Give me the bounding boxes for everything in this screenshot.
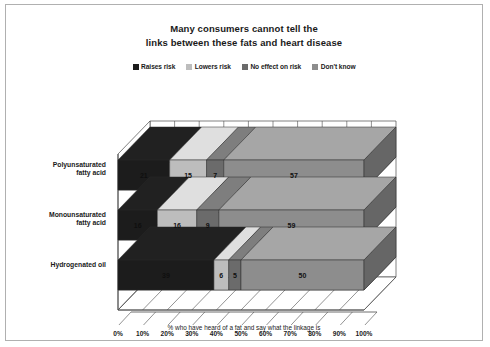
legend-label-dont-know: Don't know (321, 63, 356, 70)
bar-value-label: 57 (290, 172, 298, 179)
chart-title-line-2: links between these fats and heart disea… (6, 36, 482, 50)
legend-label-lowers-risk: Lowers risk (195, 63, 231, 70)
x-axis-tick-90: 90% (326, 330, 352, 337)
legend-item-raises-risk: Raises risk (133, 63, 176, 70)
plot-area: 21157571616959396550 (6, 85, 490, 325)
bar-value-label: 59 (288, 222, 296, 229)
category-label-polyunsaturated-fatty-acid: Polyunsaturated fatty acid (20, 161, 106, 178)
bar-value-label: 16 (134, 222, 142, 229)
x-axis-tick-30: 30% (179, 330, 205, 337)
bar-value-label: 6 (219, 272, 223, 279)
x-axis-tick-60: 60% (253, 330, 279, 337)
legend-swatch-no-effect-on-risk (242, 64, 248, 70)
bar-value-label: 21 (140, 172, 148, 179)
legend-item-dont-know: Don't know (312, 63, 355, 70)
x-axis-tick-20: 20% (154, 330, 180, 337)
legend-swatch-lowers-risk (186, 64, 192, 70)
bar-value-label: 7 (213, 172, 217, 179)
legend-item-lowers-risk: Lowers risk (186, 63, 231, 70)
x-axis-tick-80: 80% (302, 330, 328, 337)
chart-frame: Many consumers cannot tell the links bet… (5, 4, 483, 341)
bar-value-label: 15 (184, 172, 192, 179)
x-axis-tick-70: 70% (277, 330, 303, 337)
chart-bars (118, 127, 396, 290)
bar-value-label: 39 (162, 272, 170, 279)
legend-swatch-raises-risk (133, 64, 139, 70)
bar-value-label: 9 (206, 222, 210, 229)
legend-label-raises-risk: Raises risk (141, 63, 175, 70)
chart-legend: Raises risk Lowers risk No effect on ris… (6, 63, 482, 70)
legend-item-no-effect-on-risk: No effect on risk (242, 63, 301, 70)
bar-value-label: 5 (233, 272, 237, 279)
x-axis-tick-40: 40% (203, 330, 229, 337)
category-label-monounsaturated-fatty-acid: Monounsaturated fatty acid (20, 211, 106, 228)
x-axis-tick-50: 50% (228, 330, 254, 337)
category-label-hydrogenated-oil: Hydrogenated oil (20, 261, 106, 269)
chart-title-line-1: Many consumers cannot tell the (6, 22, 482, 36)
chart-caption: % who have heard of a fat and say what t… (6, 324, 482, 331)
chart-title: Many consumers cannot tell the links bet… (6, 22, 482, 49)
legend-swatch-dont-know (312, 64, 318, 70)
legend-label-no-effect-on-risk: No effect on risk (250, 63, 301, 70)
bar-value-label: 50 (299, 272, 307, 279)
x-axis-tick-0: 0% (105, 330, 131, 337)
x-axis-tick-100: 100% (351, 330, 377, 337)
chart-canvas: 21157571616959396550 (6, 85, 490, 325)
x-axis-tick-10: 10% (130, 330, 156, 337)
bar-value-label: 16 (173, 222, 181, 229)
